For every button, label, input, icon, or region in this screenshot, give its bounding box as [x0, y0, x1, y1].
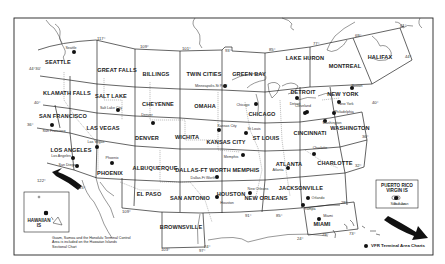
terminal-area-label: Miami — [323, 214, 333, 218]
graticule-label: 24° — [204, 244, 210, 249]
sectional-label: LAS VEGAS — [86, 125, 119, 131]
graticule-label: 91° — [245, 213, 251, 218]
hawaii-inset-title: HAWAIIAN IS — [24, 218, 54, 229]
terminal-area-label: St Louis — [248, 127, 261, 131]
terminal-area-dot — [306, 196, 310, 200]
sectional-label: DENVER — [135, 135, 159, 141]
terminal-area-label: New York — [338, 102, 353, 106]
terminal-area-label: Houston — [220, 201, 233, 205]
puerto-rico-line2: VIRGIN IS — [386, 188, 407, 193]
sectional-label: BROWNSVILLE — [160, 224, 202, 230]
graticule-label: 122° — [37, 178, 46, 183]
terminal-area-dot — [72, 50, 76, 54]
terminal-area-dot — [215, 175, 219, 179]
terminal-area-dot — [217, 128, 221, 132]
terminal-area-label: Boston — [351, 84, 362, 88]
sectional-label: MEMPHIS — [233, 167, 260, 173]
sectional-label: GREEN BAY — [232, 71, 266, 77]
sectional-label: SAN FRANCISCO — [39, 113, 87, 119]
graticule-label: 79° — [322, 232, 328, 237]
puerto-rico-inset-title: PUERTO RICO VIRGIN IS — [376, 183, 418, 194]
terminal-area-label: Memphis — [224, 155, 239, 159]
graticule-label: 32° — [355, 163, 361, 168]
graticule-label: 73° — [349, 231, 355, 236]
terminal-area-label: New Orleans — [248, 187, 269, 191]
graticule-label: 93° — [225, 48, 231, 53]
terminal-area-dot — [110, 161, 114, 165]
sectional-label: CHARLOTTE — [317, 160, 352, 166]
terminal-area-label: Las Vegas — [88, 140, 105, 144]
sectional-label: SALT LAKE — [95, 93, 127, 99]
terminal-area-dot — [71, 156, 75, 160]
terminal-area-label: Tampa — [305, 207, 316, 211]
terminal-area-dot — [241, 153, 245, 157]
graticule-label: 24° — [297, 236, 303, 241]
terminal-area-dot — [312, 152, 316, 156]
terminal-area-dot — [95, 145, 99, 149]
puerto-rico-arrow-icon — [384, 216, 428, 240]
terminal-area-label: Phoenix — [106, 156, 119, 160]
graticule-label: 61° — [400, 23, 406, 28]
terminal-area-label: Seattle — [65, 46, 76, 50]
terminal-area-dot — [244, 131, 248, 135]
graticule-label: 36° — [362, 134, 368, 139]
terminal-area-label: Charlotte — [313, 146, 328, 150]
terminal-area-dot — [151, 121, 155, 125]
sectional-label: CINCINNATI — [294, 130, 327, 136]
sectional-label: EL PASO — [137, 191, 162, 197]
graticule-label: 77° — [313, 41, 319, 46]
sectional-label: WICHITA — [175, 134, 199, 140]
terminal-area-label: Dallas-Ft Worth — [191, 176, 216, 180]
sectional-label: CHEYENNE — [142, 101, 174, 107]
terminal-area-label: Orlando — [312, 196, 325, 200]
legend: VFR Terminal Area Charts — [364, 243, 425, 248]
terminal-area-dot — [394, 196, 398, 200]
sectional-chart-map — [0, 0, 445, 264]
sectional-label: HOUSTON — [217, 191, 246, 197]
sectional-label: WASHINGTON — [330, 125, 369, 131]
graticule-label: 101° — [182, 46, 191, 51]
sectional-label: DALLAS-FT WORTH — [175, 167, 231, 173]
graticule-label: 44°30' — [29, 66, 41, 71]
terminal-area-label: Salt Lake City — [100, 106, 122, 110]
terminal-area-label: Washington — [323, 121, 342, 125]
sectional-label: PHOENIX — [97, 170, 123, 176]
sectional-label: HALIFAX — [368, 54, 393, 60]
sectional-label: BILLINGS — [143, 71, 170, 77]
graticule-label: 85° — [269, 47, 275, 52]
san-juan-label: San Juan — [393, 202, 408, 206]
terminal-area-label: Atlanta — [272, 168, 283, 172]
terminal-area-label: Los Angeles — [51, 154, 71, 158]
sectional-label: SAN ANTONIO — [170, 195, 210, 201]
sectional-label: MIAMI — [314, 221, 331, 227]
sectional-label: KANSAS CITY — [206, 139, 245, 145]
sectional-label: GREAT FALLS — [97, 67, 137, 73]
terminal-area-dot — [75, 164, 79, 168]
terminal-area-label: Philadelphia — [334, 110, 354, 114]
graticule-label: 109° — [122, 209, 131, 214]
hawaii-subtitle: IS — [37, 223, 41, 228]
hawaii-title: HAWAIIAN — [28, 218, 51, 223]
graticule-label: 28° — [341, 200, 347, 205]
legend-dot-icon — [364, 244, 368, 248]
puerto-rico-line1: PUERTO RICO — [381, 183, 413, 188]
sectional-label: NEW YORK — [327, 91, 358, 97]
sectional-label: LOS ANGELES — [51, 147, 92, 153]
terminal-area-label: Cleveland — [295, 104, 311, 108]
graticule-label: 40° — [34, 100, 40, 105]
sectional-label: NEW ORLEANS — [244, 195, 287, 201]
sectional-label: ATLANTA — [276, 161, 302, 167]
graticule-label: 44° — [405, 54, 411, 59]
terminal-area-dot — [44, 211, 48, 215]
sectional-label: OMAHA — [194, 103, 216, 109]
graticule-label: 103° — [161, 247, 170, 252]
sectional-label: JACKSONVILLE — [279, 185, 323, 191]
terminal-area-dot — [303, 111, 307, 115]
legend-label: VFR Terminal Area Charts — [371, 243, 425, 248]
terminal-area-label: Denver — [141, 113, 153, 117]
sectional-label: CHICAGO — [248, 111, 275, 117]
graticule-label: 117° — [97, 36, 105, 41]
graticule-label: 36° — [27, 122, 33, 127]
terminal-area-label: Chicago — [236, 103, 249, 107]
terminal-area-label: Kansas City — [217, 124, 236, 128]
